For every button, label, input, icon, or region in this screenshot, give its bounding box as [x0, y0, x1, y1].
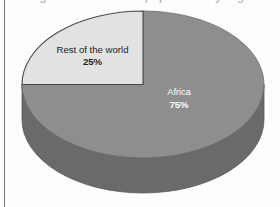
slice-label-africa-name: Africa [150, 88, 208, 98]
slice-label-africa-percent: 75% [150, 100, 208, 110]
slice-label-rest-of-the-world-name: Rest of the world [44, 45, 141, 55]
pie-chart-graphic [0, 0, 280, 207]
slice-label-rest-of-the-world-percent: 25% [44, 57, 141, 67]
slice-label-africa: Africa 75% [150, 88, 208, 110]
slice-label-rest-of-the-world: Rest of the world 25% [44, 45, 141, 68]
pie-chart-figure: Figure: share of the population by regio… [0, 0, 280, 207]
